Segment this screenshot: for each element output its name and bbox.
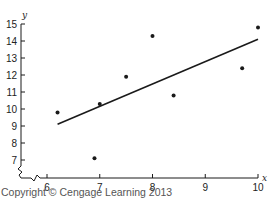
data-point — [98, 102, 102, 106]
y-tick-label: 10 — [6, 104, 18, 115]
y-tick-label: 15 — [6, 19, 18, 30]
data-point — [151, 34, 155, 38]
data-point — [172, 93, 176, 97]
x-axis-label: x — [262, 173, 267, 183]
scatter-plot: 789101112131415 678910 y x — [0, 0, 268, 202]
y-tick-label: 7 — [11, 155, 17, 166]
y-tick-label: 14 — [6, 36, 18, 47]
data-points — [56, 25, 260, 160]
y-tick-label: 12 — [6, 70, 18, 81]
x-tick-label: 10 — [252, 182, 264, 193]
data-point — [240, 66, 244, 70]
data-point — [124, 75, 128, 79]
y-tick-label: 9 — [11, 121, 17, 132]
data-point — [256, 25, 260, 29]
y-tick-label: 11 — [7, 87, 18, 98]
x-tick-label: 9 — [202, 182, 208, 193]
data-point — [92, 156, 96, 160]
regression-line — [58, 39, 258, 124]
y-tick-label: 8 — [11, 138, 17, 149]
copyright-notice: Copyright © Cengage Learning 2013 — [1, 186, 172, 198]
y-tick-label: 13 — [6, 53, 18, 64]
y-axis-label: y — [21, 10, 28, 20]
y-axis: 789101112131415 — [6, 19, 25, 179]
data-point — [56, 110, 60, 114]
